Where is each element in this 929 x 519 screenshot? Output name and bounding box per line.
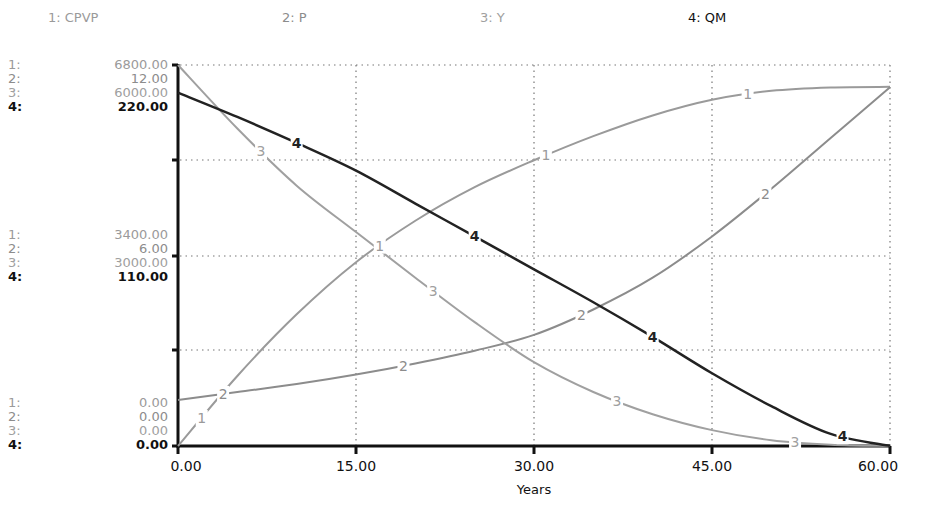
series-marker-4: 4 — [838, 428, 848, 444]
x-tick-45: 45.00 — [692, 458, 732, 474]
series-marker-2: 2 — [577, 307, 586, 323]
series-marker-4: 4 — [470, 228, 480, 244]
series-line-p — [178, 87, 890, 400]
series-marker-1: 1 — [743, 86, 752, 102]
series-marker-3: 3 — [791, 434, 800, 450]
x-tick-60: 60.00 — [858, 458, 898, 474]
series-line-qm — [178, 93, 890, 446]
plot-area: 1111222233334444 — [0, 0, 929, 519]
series-marker-2: 2 — [761, 186, 770, 202]
x-axis-title: Years — [517, 482, 551, 497]
series-marker-2: 2 — [219, 386, 228, 402]
series-marker-1: 1 — [375, 238, 384, 254]
x-tick-0: 0.00 — [170, 458, 201, 474]
axes — [172, 64, 890, 454]
series-marker-2: 2 — [399, 358, 408, 374]
gridlines — [180, 65, 890, 446]
x-tick-15: 15.00 — [336, 458, 376, 474]
series-marker-3: 3 — [613, 393, 622, 409]
series-marker-3: 3 — [429, 283, 438, 299]
series-marker-1: 1 — [541, 147, 550, 163]
series-line-cpvp — [178, 87, 890, 446]
series-marker-4: 4 — [648, 329, 658, 345]
series-marker-3: 3 — [257, 143, 266, 159]
series-marker-1: 1 — [197, 410, 206, 426]
series-marker-4: 4 — [292, 135, 302, 151]
x-tick-30: 30.00 — [514, 458, 554, 474]
